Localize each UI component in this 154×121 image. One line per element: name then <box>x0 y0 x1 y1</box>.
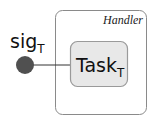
handler-label: Handler <box>102 13 143 27</box>
signal-label: sigT <box>10 30 45 56</box>
signal-node <box>16 56 34 74</box>
diagram-canvas: Handler sigT TaskT <box>0 0 154 121</box>
